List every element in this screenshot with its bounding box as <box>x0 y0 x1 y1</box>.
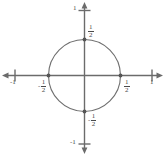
signed-fraction-negative-one-half: - 1 2 <box>88 113 96 129</box>
y-axis-label-one-half: 1 2 <box>88 24 94 40</box>
x-axis-label-negative-one: -1 <box>10 79 16 86</box>
fraction-one-half: 1 2 <box>88 24 94 40</box>
x-axis-right-arrow-icon <box>157 73 164 79</box>
fraction-one-half: 1 2 <box>41 79 47 95</box>
axes-and-circle-graphic <box>0 0 165 156</box>
point-bottom-half <box>83 110 87 114</box>
y-axis-label-one: 1 <box>73 5 77 12</box>
signed-fraction-negative-one-half: - 1 2 <box>38 79 46 95</box>
point-left-half <box>47 74 51 78</box>
y-axis-label-negative-one: -1 <box>70 139 76 146</box>
y-axis-label-negative-one-half: - 1 2 <box>88 113 96 129</box>
x-axis-left-arrow-icon <box>2 73 9 79</box>
point-right-half <box>119 74 123 78</box>
fraction-one-half: 1 2 <box>91 113 97 129</box>
point-top-half <box>83 38 87 42</box>
x-axis-label-one-half: 1 2 <box>124 79 130 95</box>
fraction-denominator: 2 <box>41 87 47 94</box>
fraction-denominator: 2 <box>88 32 94 39</box>
fraction-denominator: 2 <box>91 121 97 128</box>
y-axis-top-arrow-icon <box>82 2 88 9</box>
fraction-denominator: 2 <box>124 87 130 94</box>
coordinate-plane-figure: 1 1 2 -1 - 1 2 1 2 1 - 1 2 <box>0 0 165 156</box>
x-axis-label-negative-one-half: - 1 2 <box>38 79 46 95</box>
y-axis-bottom-arrow-icon <box>82 148 88 155</box>
x-axis-label-positive-one: 1 <box>150 79 154 86</box>
fraction-one-half: 1 2 <box>124 79 130 95</box>
